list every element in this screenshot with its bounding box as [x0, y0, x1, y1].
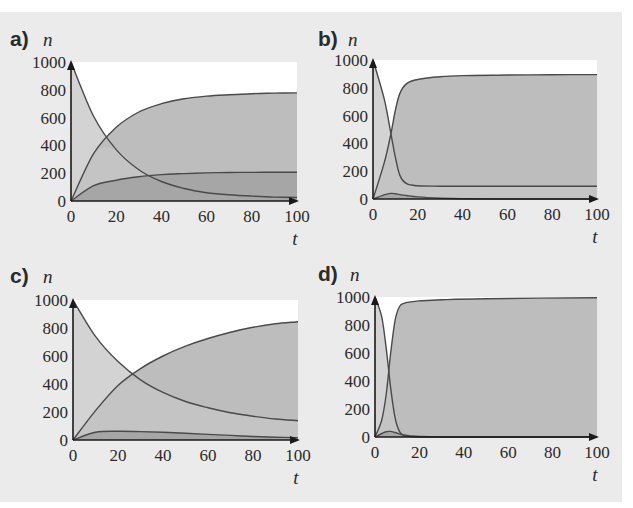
- y-axis-label: n: [43, 266, 53, 287]
- x-tick-label: 80: [544, 205, 561, 224]
- y-tick-label: 600: [345, 344, 371, 363]
- y-tick-label: 400: [43, 375, 69, 394]
- x-tick-label: 60: [499, 205, 516, 224]
- y-tick-label: 0: [360, 190, 369, 209]
- y-tick-label: 800: [343, 79, 369, 98]
- y-tick-label: 200: [343, 162, 369, 181]
- y-tick-label: 0: [58, 192, 67, 211]
- panel-label: b): [318, 27, 338, 50]
- y-tick-label: 1000: [32, 53, 66, 72]
- x-tick-label: 80: [245, 446, 262, 465]
- y-tick-label: 600: [343, 107, 369, 126]
- chart-canvas: 02004006008001000020406080100a)nt0200400…: [0, 12, 622, 502]
- x-axis-label: t: [292, 228, 298, 249]
- panel-b: 02004006008001000020406080100b)nt: [318, 27, 610, 247]
- x-axis-label: t: [592, 464, 598, 485]
- x-tick-label: 100: [584, 443, 610, 462]
- y-tick-label: 600: [43, 347, 69, 366]
- x-tick-label: 0: [69, 446, 78, 465]
- y-tick-label: 1000: [34, 291, 68, 310]
- x-tick-label: 80: [544, 443, 561, 462]
- recovered-area: [375, 298, 597, 437]
- y-tick-label: 400: [41, 136, 67, 155]
- x-tick-label: 20: [409, 205, 426, 224]
- x-axis-label: t: [592, 226, 598, 247]
- x-tick-label: 0: [67, 207, 76, 226]
- figure-panel-grid: 02004006008001000020406080100a)nt0200400…: [0, 12, 622, 502]
- x-tick-label: 20: [110, 446, 127, 465]
- x-tick-label: 0: [371, 443, 380, 462]
- x-tick-label: 40: [155, 446, 172, 465]
- y-axis-label: n: [350, 264, 360, 285]
- panel-label: c): [10, 264, 29, 287]
- x-tick-label: 40: [454, 205, 471, 224]
- y-tick-label: 0: [60, 431, 69, 450]
- y-tick-label: 400: [345, 372, 371, 391]
- panel-d: 02004006008001000020406080100d)nt: [318, 262, 610, 485]
- x-tick-label: 60: [198, 207, 215, 226]
- x-tick-label: 40: [455, 443, 472, 462]
- y-tick-label: 800: [41, 81, 67, 100]
- y-tick-label: 0: [362, 428, 371, 447]
- y-tick-label: 800: [345, 316, 371, 335]
- x-tick-label: 100: [584, 205, 610, 224]
- panel-c: 02004006008001000020406080100c)nt: [10, 264, 311, 488]
- panel-a: 02004006008001000020406080100a)nt: [10, 27, 310, 249]
- y-axis-label: n: [43, 29, 53, 50]
- recovered-area: [373, 75, 597, 199]
- y-tick-label: 1000: [336, 288, 370, 307]
- y-tick-label: 800: [43, 319, 69, 338]
- x-tick-label: 60: [200, 446, 217, 465]
- x-tick-label: 0: [369, 205, 378, 224]
- x-axis-label: t: [293, 467, 299, 488]
- x-tick-label: 60: [500, 443, 517, 462]
- panel-label: d): [318, 262, 338, 285]
- x-tick-label: 100: [284, 207, 310, 226]
- y-tick-label: 200: [41, 164, 67, 183]
- x-tick-label: 20: [411, 443, 428, 462]
- y-tick-label: 200: [43, 403, 69, 422]
- x-tick-label: 20: [108, 207, 125, 226]
- x-tick-label: 100: [285, 446, 311, 465]
- y-axis-label: n: [348, 29, 358, 50]
- y-tick-label: 200: [345, 400, 371, 419]
- y-tick-label: 1000: [334, 51, 368, 70]
- panel-label: a): [10, 27, 29, 50]
- x-tick-label: 40: [153, 207, 170, 226]
- x-tick-label: 80: [243, 207, 260, 226]
- y-tick-label: 400: [343, 134, 369, 153]
- y-tick-label: 600: [41, 109, 67, 128]
